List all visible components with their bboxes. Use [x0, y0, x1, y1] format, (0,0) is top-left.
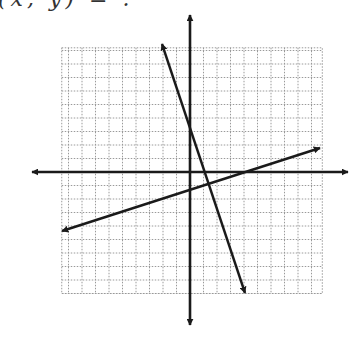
axes — [32, 15, 348, 325]
grid-border — [62, 48, 323, 294]
grid — [62, 48, 323, 294]
coordinate-graph — [0, 0, 360, 355]
